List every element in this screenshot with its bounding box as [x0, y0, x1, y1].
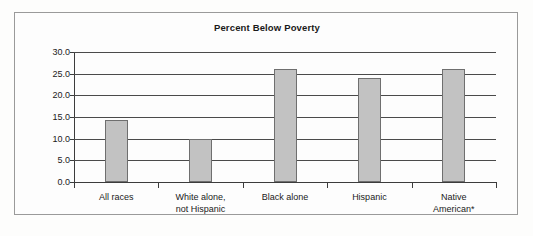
bar: [105, 120, 128, 182]
x-axis-tick-mark: [412, 182, 413, 188]
chart-frame: Percent Below Poverty 0.05.010.015.020.0…: [14, 12, 518, 215]
x-axis-tick-label: All races: [74, 192, 158, 204]
x-axis-tick-mark: [496, 182, 497, 188]
gridline: [74, 52, 496, 53]
x-axis-tick-mark: [243, 182, 244, 188]
y-axis-tick-marks: [15, 52, 77, 182]
x-axis-tick-label: White alone, not Hispanic: [158, 192, 242, 215]
chart-title: Percent Below Poverty: [15, 22, 519, 33]
chart-figure: Percent Below Poverty 0.05.010.015.020.0…: [0, 0, 533, 236]
bar: [442, 69, 465, 182]
x-axis-tick-mark: [74, 182, 75, 188]
x-axis-tick-label: Black alone: [243, 192, 327, 204]
x-axis-line: [74, 182, 497, 183]
x-axis-tick-label: Hispanic: [327, 192, 411, 204]
x-axis-tick-mark: [327, 182, 328, 188]
x-axis-tick-mark: [158, 182, 159, 188]
bar: [274, 69, 297, 182]
bar: [189, 139, 212, 182]
x-axis-tick-label: Native American*: [412, 192, 496, 215]
plot-area: [74, 52, 496, 182]
bar: [358, 78, 381, 182]
